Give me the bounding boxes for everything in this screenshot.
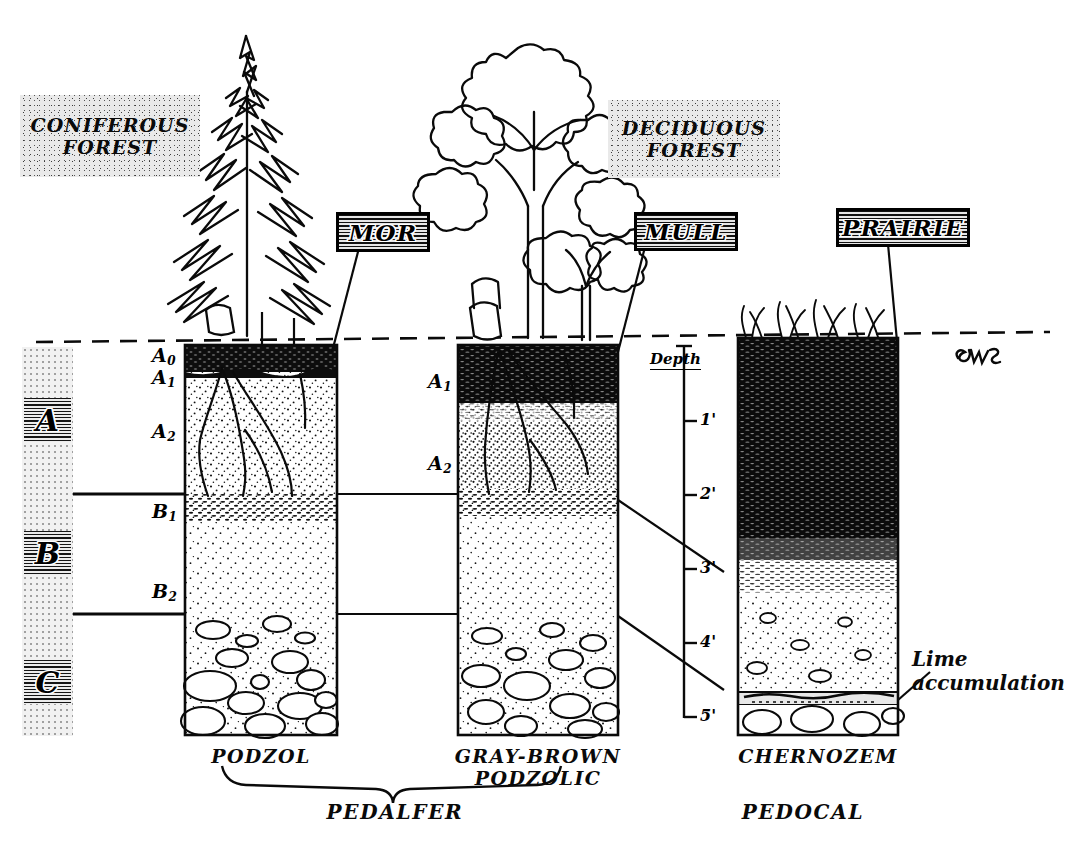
master-horizon-key-a: A	[24, 398, 71, 442]
master-horizon-label: A	[36, 403, 59, 438]
master-horizon-label: B	[35, 536, 60, 571]
biome-line-2: FOREST	[63, 136, 157, 158]
conifer-tree	[168, 36, 330, 336]
plaque-prairie: PRAIRIE	[836, 208, 970, 247]
profile-name-gray-brown-podzolic: GRAY-BROWN PODZOLIC	[448, 746, 628, 790]
master-horizon-key-b: B	[24, 531, 71, 575]
biome-deciduous-forest: DECIDUOUS FOREST	[608, 100, 780, 178]
horizon-base: A	[428, 452, 443, 474]
depth-tick-4: 4'	[700, 632, 716, 651]
artist-signature	[957, 349, 1000, 363]
soil-order-pedalfer: PEDALFER	[310, 800, 480, 824]
plaque-mor: MOR	[336, 212, 430, 252]
soil-order-pedocal: PEDOCAL	[718, 800, 888, 824]
horizon-base: A	[152, 420, 167, 442]
horizon-label-gb-a2: A2	[428, 452, 451, 474]
biome-line-1: DECIDUOUS	[622, 117, 766, 139]
horizon-label-a0: A0	[152, 344, 175, 366]
depth-scale-caption: Depth	[650, 350, 701, 370]
horizon-sub: 1	[169, 510, 177, 524]
biome-line-1: CONIFEROUS	[31, 114, 190, 136]
profile-gray-brown-podzolic	[458, 302, 619, 738]
depth-tick-2: 2'	[700, 484, 716, 503]
lime-band	[738, 692, 898, 705]
horizon-base: B	[152, 580, 168, 602]
deciduous-tree	[413, 44, 646, 340]
horizon-sub: 2	[443, 462, 451, 476]
plaque-label: MOR	[349, 219, 418, 246]
horizon-sub: 1	[167, 376, 175, 390]
depth-scale	[676, 346, 697, 718]
master-horizon-key-c: C	[24, 660, 71, 704]
plaque-label: MULL	[644, 218, 727, 245]
plaque-mull: MULL	[634, 212, 738, 251]
horizon-label-gb-a1: A1	[428, 370, 451, 392]
horizon-base: A	[428, 370, 443, 392]
depth-tick-1: 1'	[700, 410, 716, 429]
profile-podzol	[181, 305, 338, 738]
profile-name-chernozem: CHERNOZEM	[728, 746, 908, 768]
biome-coniferous-forest: CONIFEROUS FOREST	[20, 95, 200, 177]
profile-name-podzol: PODZOL	[181, 746, 341, 768]
depth-tick-5: 5'	[700, 706, 716, 725]
horizon-base: A	[152, 366, 167, 388]
horizon-label-a2: A2	[152, 420, 175, 442]
horizon-base: A	[152, 344, 167, 366]
biome-line-2: FOREST	[647, 139, 741, 161]
horizon-sub: 1	[443, 380, 451, 394]
annotation-lime-accumulation: Lime accumulation	[912, 648, 1077, 695]
horizon-base: B	[152, 500, 168, 522]
horizon-label-a1: A1	[152, 366, 175, 388]
soil-profile-diagram: CONIFEROUS FOREST DECIDUOUS FOREST MOR M…	[0, 0, 1082, 843]
horizon-label-b1: B1	[152, 500, 176, 522]
depth-tick-3: 3'	[700, 558, 716, 577]
horizon-sub: 2	[169, 590, 177, 604]
horizon-label-b2: B2	[152, 580, 176, 602]
profile-chernozem	[738, 300, 904, 736]
horizon-sub: 2	[167, 430, 175, 444]
master-horizon-label: C	[36, 665, 60, 700]
plaque-label: PRAIRIE	[842, 214, 964, 241]
